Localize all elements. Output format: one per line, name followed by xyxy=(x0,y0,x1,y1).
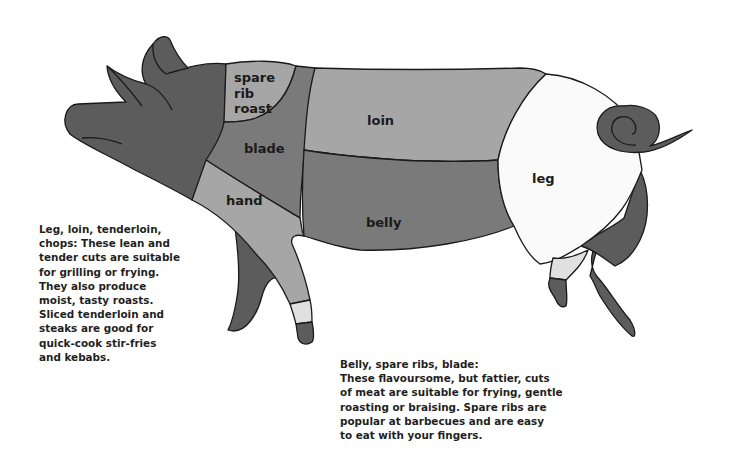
fatty-cuts-caption: Belly, spare ribs, blade: These flavours… xyxy=(340,357,580,442)
label-belly: belly xyxy=(366,215,402,230)
caption-line: tender cuts are suitable xyxy=(39,250,199,264)
caption-line: and kebabs. xyxy=(39,350,199,364)
label-blade: blade xyxy=(244,141,285,156)
caption-line: They also produce xyxy=(39,279,199,293)
label-leg: leg xyxy=(532,171,555,186)
front-trotter xyxy=(296,322,314,344)
label-loin: loin xyxy=(367,113,394,128)
caption-line: popular at barbecues and are easy xyxy=(340,414,580,428)
caption-line: to eat with your fingers. xyxy=(340,428,580,442)
caption-line: for grilling or frying. xyxy=(39,265,199,279)
caption-line: Leg, loin, tenderloin, xyxy=(39,222,199,236)
caption-line: moist, tasty roasts. xyxy=(39,293,199,307)
caption-line: chops: These lean and xyxy=(39,236,199,250)
belly-region xyxy=(303,150,515,250)
caption-line: Sliced tenderloin and xyxy=(39,307,199,321)
hand-foot-band xyxy=(290,300,312,324)
caption-line: These flavoursome, but fattier, cuts xyxy=(340,371,580,385)
rear-trotter xyxy=(549,278,567,307)
caption-line: of meat are suitable for frying, gentle xyxy=(340,385,580,399)
lean-cuts-caption: Leg, loin, tenderloin, chops: These lean… xyxy=(39,222,199,364)
caption-line: steaks are good for xyxy=(39,321,199,335)
label-hand: hand xyxy=(226,193,263,208)
caption-line: Belly, spare ribs, blade: xyxy=(340,357,580,371)
caption-line: quick-cook stir-fries xyxy=(39,336,199,350)
caption-line: roasting or braising. Spare ribs are xyxy=(340,400,580,414)
